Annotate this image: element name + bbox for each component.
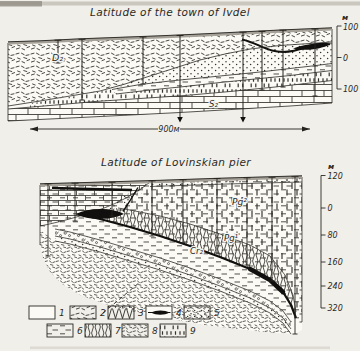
legend-item-number: 9 [190,326,196,336]
label-cr2: Cr₂ [190,246,203,256]
label-s2: S₂ [209,99,218,109]
top-section-title: Latitude of the town of Ivdel [90,6,250,18]
legend-swatch-speckle-fine [122,324,148,337]
scale-bar: 900м [30,125,310,134]
legend-item: 2 [70,306,106,319]
label-pg2: Pg² [232,197,247,207]
legend-swatch-blank [29,306,55,319]
legend-item: 7 [85,324,121,337]
legend-swatch-dash-brick [160,324,186,337]
scan-smudge-top [0,2,360,6]
axis-tick: 100 [343,85,358,94]
legend-item-number: 7 [115,326,121,336]
axis-tick: 80 [328,231,338,240]
geological-cross-sections: Latitude of the town of Ivdel [0,0,360,351]
legend-item: 3 [108,306,144,319]
legend-item-number: 1 [59,308,65,318]
axis-unit: м [342,13,348,22]
axis-tick: 100 [343,23,358,32]
top-section: Latitude of the town of Ivdel [8,6,358,134]
scan-smudge-top-left [0,1,42,7]
legend-swatch-dots [184,306,210,319]
top-cross-section: D₂ S₂ [8,28,332,123]
axis-tick: 240 [328,282,343,291]
legend-swatch-hdash [47,324,73,337]
label-pg1: Pg¹ [224,233,238,243]
legend-item: 9 [160,324,196,337]
top-elevation-axis: м 100 0 100 [337,13,358,94]
axis-tick: 0 [343,54,348,63]
legend-item-number: 5 [214,308,220,318]
legend-item: 8 [122,324,158,337]
legend-item-number: 6 [77,326,83,336]
legend-item-number: 2 [100,308,106,318]
axis-tick: 160 [328,258,343,267]
axis-tick: 320 [328,304,343,313]
axis-tick: 120 [328,172,343,181]
label-d2: D₂ [52,52,63,63]
legend-item: 1 [29,306,65,319]
axis-bracket [337,26,342,89]
scale-label: 900м [158,125,179,134]
borehole-bottom-markers [177,117,246,123]
legend-swatch-vwave [85,324,111,337]
legend-item: 5 [184,306,220,319]
axis-unit: м [328,162,334,171]
axis-tick: 0 [328,204,333,213]
scan-smudge-bottom [30,347,330,350]
axis-bracket [321,176,326,309]
legend-item: 6 [47,324,83,337]
legend-item-number: 4 [176,308,182,318]
legend-item: 4 [146,306,182,319]
legend-item-number: 3 [138,308,144,318]
legend-swatch-speckle-coarse [70,306,96,319]
legend-item-number: 8 [152,326,158,336]
bottom-elevation-axis: м 120 0 80 160 240 320 [321,162,343,314]
bottom-section-title: Latitude of Lovinskian pier [101,156,251,168]
scanned-figure: Latitude of the town of Ivdel [0,0,360,351]
legend-swatch-zigzag [108,306,134,319]
